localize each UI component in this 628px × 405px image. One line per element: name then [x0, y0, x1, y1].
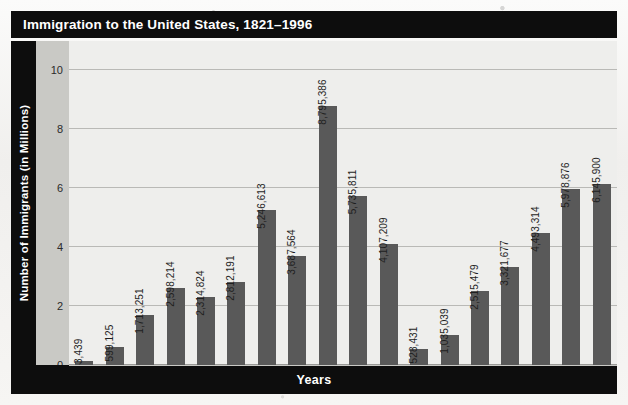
bar[interactable]	[593, 184, 611, 365]
plot-area: 143,439599,1251,713,2512,598,2142,314,82…	[69, 41, 617, 365]
y-axis-tick-label: 8	[57, 123, 63, 135]
bar-slot: 3,687,564	[282, 41, 312, 365]
chart-frame: Number of Immigrants (in Millions) 02468…	[11, 41, 617, 394]
bar-slot: 1,035,039	[434, 41, 464, 365]
bar-slot: 599,125	[99, 41, 129, 365]
bar-slot: 528,431	[404, 41, 434, 365]
bar-value-label: 5,246,613	[256, 184, 267, 229]
bar-slot: 4,107,209	[373, 41, 403, 365]
bar-slot: 1,713,251	[130, 41, 160, 365]
bar-value-label: 6,145,900	[591, 157, 602, 202]
bar-slot: 143,439	[69, 41, 99, 365]
bar-value-label: 8,795,386	[317, 79, 328, 124]
bar-slot: 6,145,900	[587, 41, 617, 365]
bar-slot: 2,314,824	[191, 41, 221, 365]
y-axis-title-band: Number of Immigrants (in Millions)	[11, 41, 36, 365]
bar-slot: 4,493,314	[526, 41, 556, 365]
bar-value-label: 2,314,824	[195, 270, 206, 315]
bar-value-label: 3,687,564	[286, 230, 297, 275]
bar[interactable]	[532, 233, 550, 365]
bar-value-label: 3,321,677	[499, 240, 510, 285]
bar-value-label: 599,125	[104, 325, 115, 362]
chart-title-bar: Immigration to the United States, 1821–1…	[11, 11, 617, 38]
x-axis-title-band: Years	[11, 366, 617, 394]
bar-slot: 2,812,191	[221, 41, 251, 365]
bar-slot: 5,246,613	[252, 41, 282, 365]
bar-value-label: 143,439	[73, 338, 84, 365]
page-title: Immigration to the United States, 1821–1…	[11, 17, 312, 32]
bar-value-label: 4,107,209	[378, 217, 389, 262]
y-axis-title: Number of Immigrants (in Millions)	[18, 105, 30, 302]
y-axis-tick-label: 6	[57, 182, 63, 194]
bar-slot: 2,515,479	[465, 41, 495, 365]
bar-value-label: 1,035,039	[439, 308, 450, 353]
y-axis-tick-label: 10	[51, 64, 63, 76]
bar-value-label: 2,598,214	[165, 262, 176, 307]
y-axis-tick-label: 4	[57, 241, 63, 253]
bar[interactable]	[562, 189, 580, 365]
bar-value-label: 5,978,876	[560, 162, 571, 207]
bar-value-label: 2,812,191	[225, 255, 236, 300]
chart-page: Immigration to the United States, 1821–1…	[0, 0, 628, 405]
y-axis-tick-strip: 0246810	[36, 41, 69, 365]
bar-slot: 5,978,876	[556, 41, 586, 365]
bar-slot: 5,735,811	[343, 41, 373, 365]
y-axis-tick-label: 2	[57, 300, 63, 312]
bar[interactable]	[349, 196, 367, 365]
bar-value-label: 1,713,251	[134, 288, 145, 333]
bar-value-label: 2,515,479	[469, 264, 480, 309]
bar-value-label: 4,493,314	[530, 206, 541, 251]
bar-slot: 8,795,386	[313, 41, 343, 365]
bar[interactable]	[258, 210, 276, 365]
bar-value-label: 5,735,811	[347, 170, 358, 215]
bar-slot: 2,598,214	[160, 41, 190, 365]
x-axis-title: Years	[297, 373, 332, 387]
bar-slot: 3,321,677	[495, 41, 525, 365]
bar-value-label: 528,431	[408, 327, 419, 364]
bar[interactable]	[319, 106, 337, 365]
